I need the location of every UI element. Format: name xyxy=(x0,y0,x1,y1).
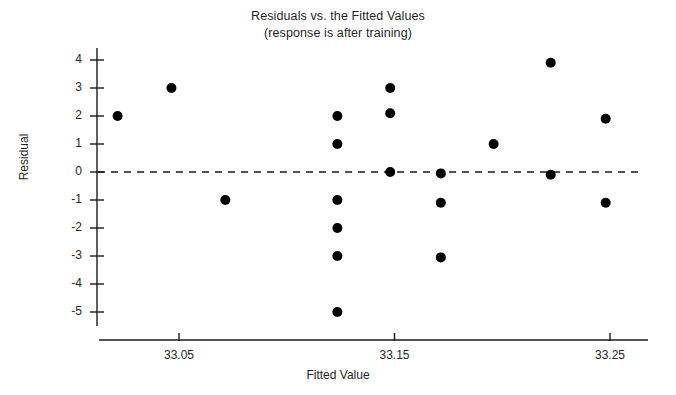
data-point xyxy=(436,198,446,208)
data-point xyxy=(601,114,611,124)
data-point xyxy=(166,83,176,93)
data-point xyxy=(332,307,342,317)
data-points xyxy=(113,58,611,317)
data-point xyxy=(332,223,342,233)
data-point xyxy=(385,83,395,93)
data-point xyxy=(332,111,342,121)
data-point xyxy=(436,168,446,178)
data-point xyxy=(385,108,395,118)
plot-area xyxy=(0,0,676,395)
data-point xyxy=(332,139,342,149)
data-point xyxy=(332,251,342,261)
data-point xyxy=(332,195,342,205)
data-point xyxy=(113,111,123,121)
data-point xyxy=(436,252,446,262)
data-point xyxy=(601,198,611,208)
data-point xyxy=(220,195,230,205)
residual-plot: Residuals vs. the Fitted Values (respons… xyxy=(0,0,676,395)
data-point xyxy=(489,139,499,149)
data-point xyxy=(546,58,556,68)
data-point xyxy=(385,167,395,177)
data-point xyxy=(546,170,556,180)
